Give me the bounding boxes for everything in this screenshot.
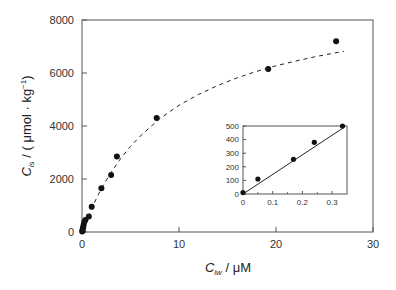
inset-x-tick-label: 0.3	[327, 198, 339, 207]
main-x-tick-label: 30	[367, 238, 379, 250]
inset-y-tick-label: 100	[226, 176, 240, 185]
main-y-tick-label: 4000	[50, 120, 74, 132]
inset-y-tick-label: 400	[226, 135, 240, 144]
inset-y-tick-label: 0	[235, 190, 240, 199]
y-axis-title: Cis / ( μmol · kg−1)	[19, 75, 36, 176]
inset-x-tick-label: 0	[241, 198, 246, 207]
main-x-tick-label: 20	[270, 238, 282, 250]
main-x-tick-label: 0	[79, 238, 85, 250]
main-y-tick-label: 8000	[50, 14, 74, 26]
inset-data-point	[255, 176, 260, 181]
inset-y-tick-label: 500	[226, 122, 240, 131]
x-axis-title: Ciw / μM	[205, 260, 251, 277]
inset-x-tick-label: 0.1	[267, 198, 279, 207]
chart: 010203002000400060008000Ciw / μMCis / ( …	[0, 0, 396, 290]
inset-x-tick-label: 0.2	[297, 198, 309, 207]
inset-y-tick-label: 300	[226, 149, 240, 158]
main-data-point	[98, 185, 104, 191]
main-y-tick-label: 6000	[50, 67, 74, 79]
inset-data-point	[312, 140, 317, 145]
main-y-tick-label: 2000	[50, 173, 74, 185]
main-x-tick-label: 10	[173, 238, 185, 250]
main-data-point	[154, 115, 160, 121]
main-data-point	[333, 38, 339, 44]
main-data-point	[114, 154, 120, 160]
inset-y-tick-label: 200	[226, 163, 240, 172]
main-y-tick-label: 0	[68, 226, 74, 238]
inset-plot: 00.10.20.30100200300400500	[226, 122, 347, 207]
